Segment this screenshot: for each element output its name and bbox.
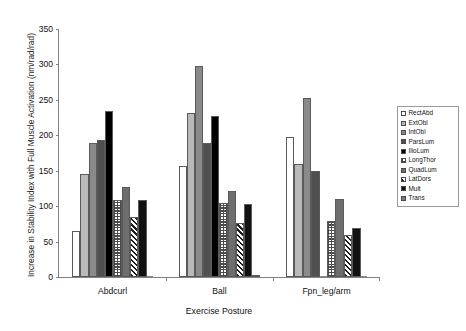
bar-group-bars xyxy=(72,29,153,277)
legend-swatch-icon xyxy=(401,168,406,173)
legend-swatch-icon xyxy=(401,130,406,135)
bar-longthor-abdcurl xyxy=(113,200,121,277)
legend-swatch-icon xyxy=(401,139,406,144)
bar-mult-ball xyxy=(244,204,252,277)
legend-item-mult[interactable]: Mult xyxy=(400,184,456,193)
legend: RectAbdExtOblIntOblParsLumIlioLumLongTho… xyxy=(397,106,459,207)
x-tick-label: Abdcurl xyxy=(98,286,127,296)
legend-item-longthor[interactable]: LongThor xyxy=(400,156,456,165)
bar-parslum-fpn-leg-arm xyxy=(311,171,320,277)
x-tick-label: Fpn_leg/arm xyxy=(302,286,350,296)
x-tick-label: Ball xyxy=(212,286,226,296)
bar-trans-abdcurl xyxy=(147,276,153,277)
bar-trans-fpn-leg-arm xyxy=(361,276,368,277)
bar-latdors-ball xyxy=(236,223,244,277)
y-tick-label: 0 xyxy=(7,272,59,282)
bar-intobl-fpn-leg-arm xyxy=(303,98,312,277)
legend-label: IlioLum xyxy=(409,148,430,154)
bar-rectabd-ball xyxy=(179,166,187,277)
bar-extobl-fpn-leg-arm xyxy=(294,164,303,277)
bar-parslum-abdcurl xyxy=(97,140,105,277)
legend-label: ExtObl xyxy=(409,120,428,126)
y-tick-label: 350 xyxy=(7,24,59,34)
bar-rectabd-abdcurl xyxy=(72,231,80,277)
x-axis-title: Exercise Posture xyxy=(58,306,380,316)
bar-mult-abdcurl xyxy=(138,200,146,277)
bar-iliolum-ball xyxy=(211,116,219,277)
legend-swatch-icon xyxy=(401,196,406,201)
bar-longthor-ball xyxy=(219,203,227,277)
legend-swatch-icon xyxy=(401,158,406,163)
legend-swatch-icon xyxy=(401,177,406,182)
legend-item-rectabd[interactable]: RectAbd xyxy=(400,109,456,118)
bar-iliolum-abdcurl xyxy=(105,111,113,277)
bar-rectabd-fpn-leg-arm xyxy=(286,137,295,277)
x-tick-mark xyxy=(273,277,274,281)
y-tick-label: 250 xyxy=(7,95,59,105)
legend-swatch-icon xyxy=(401,111,406,116)
bar-longthor-fpn-leg-arm xyxy=(327,221,336,277)
bar-group: Abdcurl xyxy=(59,29,166,277)
bar-group-bars xyxy=(179,29,260,277)
legend-item-quadlum[interactable]: QuadLum xyxy=(400,165,456,174)
legend-swatch-icon xyxy=(401,121,406,126)
y-tick-label: 150 xyxy=(7,166,59,176)
bar-quadlum-fpn-leg-arm xyxy=(335,199,344,277)
bar-extobl-abdcurl xyxy=(80,174,88,277)
legend-label: LatDors xyxy=(409,176,431,182)
legend-label: LongThor xyxy=(409,157,436,163)
y-tick-label: 100 xyxy=(7,201,59,211)
legend-label: RectAbd xyxy=(409,110,434,116)
x-tick-mark xyxy=(166,277,167,281)
bar-groups: AbdcurlBallFpn_leg/arm xyxy=(59,29,380,277)
legend-label: ParsLum xyxy=(409,139,435,145)
bar-intobl-abdcurl xyxy=(89,143,97,277)
legend-swatch-icon xyxy=(401,186,406,191)
legend-label: IntObl xyxy=(409,129,426,135)
legend-label: QuadLum xyxy=(409,167,437,173)
legend-swatch-icon xyxy=(401,149,406,154)
y-tick-label: 200 xyxy=(7,130,59,140)
bar-group: Ball xyxy=(166,29,273,277)
y-tick-label: 300 xyxy=(7,59,59,69)
bar-quadlum-abdcurl xyxy=(122,187,130,277)
plot-area: 050100150200250300350 AbdcurlBallFpn_leg… xyxy=(58,29,380,278)
bar-group-bars xyxy=(286,29,367,277)
bar-intobl-ball xyxy=(195,66,203,277)
bar-group: Fpn_leg/arm xyxy=(273,29,380,277)
legend-label: Mult xyxy=(409,186,421,192)
legend-label: Trans xyxy=(409,195,425,201)
legend-item-latdors[interactable]: LatDors xyxy=(400,175,456,184)
bar-mult-fpn-leg-arm xyxy=(352,228,361,277)
legend-item-trans[interactable]: Trans xyxy=(400,194,456,203)
x-tick-mark xyxy=(379,277,380,281)
bar-trans-ball xyxy=(252,275,260,277)
legend-item-intobl[interactable]: IntObl xyxy=(400,128,456,137)
bar-parslum-ball xyxy=(203,143,211,277)
legend-item-iliolum[interactable]: IlioLum xyxy=(400,147,456,156)
legend-item-extobl[interactable]: ExtObl xyxy=(400,118,456,127)
bar-latdors-abdcurl xyxy=(130,217,138,277)
bar-latdors-fpn-leg-arm xyxy=(344,235,353,278)
chart-root: Increase in Stability Index with Full Mu… xyxy=(0,0,466,331)
legend-item-parslum[interactable]: ParsLum xyxy=(400,137,456,146)
y-tick-label: 50 xyxy=(7,237,59,247)
bar-quadlum-ball xyxy=(228,191,236,277)
bar-extobl-ball xyxy=(187,113,195,277)
y-tick-mark xyxy=(56,277,59,278)
